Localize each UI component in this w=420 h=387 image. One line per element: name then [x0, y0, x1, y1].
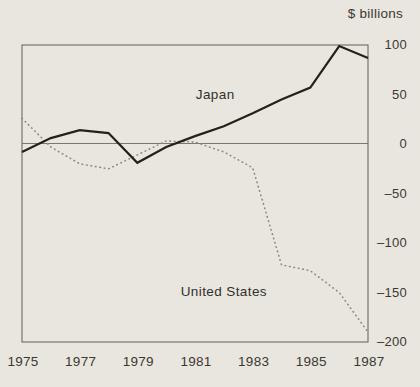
x-axis-tick-labels: 1975197719791981198319851987	[0, 354, 420, 372]
y-tick-label: –150	[367, 285, 407, 300]
japan-line	[22, 46, 368, 163]
united-states-line	[22, 118, 368, 332]
y-tick-label: 0	[367, 136, 407, 151]
chart-canvas	[0, 0, 420, 387]
y-tick-label: –200	[367, 334, 407, 349]
x-tick-label: 1975	[0, 354, 47, 369]
x-tick-label: 1985	[287, 354, 335, 369]
x-tick-label: 1981	[172, 354, 220, 369]
united-states-series-label: United States	[181, 283, 267, 298]
x-tick-label: 1979	[114, 354, 162, 369]
y-tick-label: –100	[367, 235, 407, 250]
x-tick-label: 1977	[57, 354, 105, 369]
y-tick-label: –50	[367, 186, 407, 201]
y-axis-tick-labels: 100500–50–100–150–200	[368, 0, 407, 387]
japan-series-label: Japan	[196, 86, 235, 101]
y-tick-label: 50	[367, 87, 407, 102]
x-tick-label: 1983	[230, 354, 278, 369]
x-tick-label: 1987	[345, 354, 393, 369]
y-tick-label: 100	[367, 37, 407, 52]
current-account-chart: $ billions Japan United States 100500–50…	[0, 0, 420, 387]
